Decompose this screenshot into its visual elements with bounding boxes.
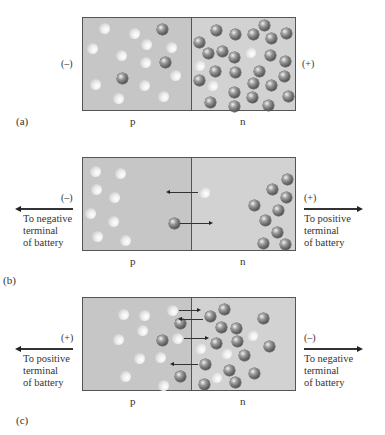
panel-a: (–) (+) p n (a): [0, 0, 385, 140]
hole-particle: [139, 80, 150, 91]
electron-particle: [248, 29, 259, 40]
electron-particle: [117, 73, 128, 84]
hole-particle: [221, 348, 232, 359]
electron-particle: [229, 101, 240, 112]
electron-particle: [205, 97, 216, 108]
electron-particle: [264, 341, 275, 352]
electron-particle: [247, 92, 258, 103]
electron-particle: [239, 350, 250, 361]
electron-particle: [281, 192, 292, 203]
hole-particle: [118, 309, 129, 320]
hole-particle: [158, 91, 169, 102]
arrow-to-positive-terminal-c: [19, 348, 73, 350]
electron-particle: [249, 368, 260, 379]
hole-particle: [87, 43, 98, 54]
left-polarity-c: (+): [61, 332, 73, 344]
electron-particle: [157, 335, 168, 346]
left-terminal-text-b: To negative terminal of battery: [23, 213, 72, 249]
electron-particle: [230, 377, 241, 388]
hole-particle: [90, 79, 101, 90]
electron-particle: [231, 323, 242, 334]
n-region-b: [191, 158, 295, 250]
arrow-to-negative-terminal-c: [304, 348, 359, 350]
hole-particle: [113, 93, 124, 104]
electron-particle: [279, 71, 290, 82]
arrow-to-negative-terminal-b: [19, 208, 73, 210]
electron-particle: [265, 50, 276, 61]
junction-line-a: [191, 18, 192, 110]
junction-line-b: [191, 158, 192, 250]
electron-particle: [280, 56, 291, 67]
electron-particle: [175, 318, 186, 329]
electron-particle: [273, 205, 284, 216]
n-label-c: n: [240, 395, 246, 407]
hole-particle: [108, 216, 119, 227]
hole-particle: [129, 28, 140, 39]
hole-particle: [109, 192, 120, 203]
right-terminal-text-b: To positive terminal of battery: [304, 213, 351, 249]
electron-particle: [249, 200, 260, 211]
right-polarity-a: (+): [302, 58, 314, 70]
hole-particle: [120, 371, 131, 382]
hole-particle: [90, 166, 101, 177]
electron-particle: [211, 338, 222, 349]
hole-particle: [113, 334, 124, 345]
electron-particle: [175, 371, 186, 382]
carrier-flow-arrow-left: [173, 364, 198, 365]
electron-particle: [259, 20, 270, 31]
electron-particle: [260, 215, 271, 226]
electron-particle: [263, 100, 274, 111]
electron-particle: [199, 379, 210, 390]
electron-particle: [211, 25, 222, 36]
hole-particle: [158, 380, 169, 391]
electron-particle: [267, 184, 278, 195]
electron-particle: [230, 67, 241, 78]
p-label-c: p: [130, 395, 136, 407]
hole-particle: [245, 47, 256, 58]
right-polarity-c: (–): [304, 332, 316, 344]
electron-particle: [210, 66, 221, 77]
hole-particle: [167, 305, 178, 316]
electron-particle: [258, 313, 269, 324]
left-terminal-text-c: To positive terminal of battery: [23, 353, 70, 389]
electron-particle: [282, 174, 293, 185]
arrow-to-positive-terminal-b: [304, 208, 359, 210]
electron-particle: [224, 365, 235, 376]
p-region-c: [83, 298, 191, 390]
carrier-flow-arrow-right: [179, 310, 198, 311]
carrier-flow-arrow-left: [169, 192, 198, 193]
electron-particle: [169, 218, 180, 229]
n-label-b: n: [240, 255, 246, 267]
electron-particle: [280, 239, 291, 250]
electron-particle: [283, 91, 294, 102]
hole-particle: [137, 325, 148, 336]
carrier-flow-arrow-right: [180, 223, 210, 224]
left-polarity-b: (–): [61, 192, 73, 204]
p-label-a: p: [130, 115, 136, 127]
electron-particle: [254, 66, 265, 77]
electron-particle: [194, 75, 205, 86]
n-region-a: [191, 18, 295, 110]
electron-particle: [160, 57, 171, 68]
electron-particle: [258, 238, 269, 249]
n-region-c: [191, 298, 295, 390]
right-polarity-b: (+): [304, 192, 316, 204]
hole-particle: [166, 42, 177, 53]
electron-particle: [266, 33, 277, 44]
hole-particle: [211, 372, 222, 383]
n-label-a: n: [240, 115, 246, 127]
electron-particle: [205, 311, 216, 322]
hole-particle: [195, 343, 206, 354]
hole-particle: [194, 60, 205, 71]
hole-particle: [116, 50, 127, 61]
electron-particle: [232, 336, 243, 347]
hole-particle: [199, 187, 210, 198]
electron-particle: [266, 80, 277, 91]
electron-particle: [248, 78, 259, 89]
hole-particle: [170, 70, 181, 81]
hole-particle: [99, 23, 110, 34]
hole-particle: [172, 333, 183, 344]
carrier-flow-arrow-left: [181, 319, 203, 320]
electron-particle: [281, 28, 292, 39]
electron-particle: [203, 48, 214, 59]
